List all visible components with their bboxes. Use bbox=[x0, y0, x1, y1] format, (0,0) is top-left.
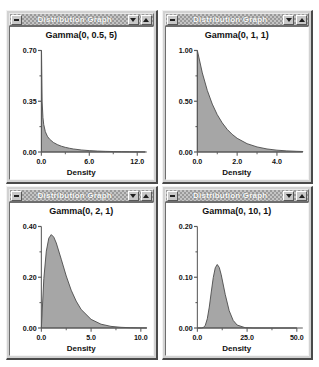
plot-area-4: 0.000.100.200.025.050.0 bbox=[166, 220, 309, 355]
x-axis-label-2: Density bbox=[166, 168, 309, 177]
x-axis-label-1: Density bbox=[10, 168, 153, 177]
distribution-graph-window-2[interactable]: Distribution Graph Gamma(0, 1, 1) 0.000.… bbox=[162, 10, 314, 184]
system-menu-button-4[interactable] bbox=[167, 191, 178, 201]
svg-text:0.0: 0.0 bbox=[192, 156, 202, 166]
window-title-4: Distribution Graph bbox=[179, 191, 283, 200]
svg-text:5.0: 5.0 bbox=[86, 332, 96, 342]
chevron-up-icon bbox=[299, 18, 305, 22]
distribution-graph-window-4[interactable]: Distribution Graph Gamma(0, 10, 1) 0.000… bbox=[162, 186, 314, 360]
window-title-2: Distribution Graph bbox=[179, 15, 283, 24]
minimize-button-4[interactable] bbox=[283, 191, 294, 201]
chevron-up-icon bbox=[299, 194, 305, 198]
minimize-button-2[interactable] bbox=[283, 15, 294, 25]
system-menu-button-1[interactable] bbox=[11, 15, 22, 25]
window-title-3: Distribution Graph bbox=[23, 191, 127, 200]
window-titlebar-2[interactable]: Distribution Graph bbox=[165, 13, 310, 26]
chevron-down-icon bbox=[130, 18, 136, 22]
window-client-area-1: Gamma(0, 0.5, 5) 0.000.350.700.06.012.0 … bbox=[9, 26, 154, 180]
svg-text:12.0: 12.0 bbox=[130, 156, 144, 166]
window-title-1: Distribution Graph bbox=[23, 15, 127, 24]
plot-area-1: 0.000.350.700.06.012.0 bbox=[10, 44, 153, 179]
chart-title-1: Gamma(0, 0.5, 5) bbox=[10, 30, 153, 41]
svg-text:0.20: 0.20 bbox=[178, 222, 192, 232]
x-axis-label-4: Density bbox=[166, 344, 309, 353]
system-menu-icon bbox=[170, 19, 175, 21]
plot-area-2: 0.000.501.000.02.04.0 bbox=[166, 44, 309, 179]
svg-text:0.00: 0.00 bbox=[178, 147, 192, 157]
maximize-button-4[interactable] bbox=[296, 191, 307, 201]
window-titlebar-3[interactable]: Distribution Graph bbox=[9, 189, 154, 202]
minimize-button-1[interactable] bbox=[128, 15, 139, 25]
svg-text:0.10: 0.10 bbox=[178, 273, 192, 283]
system-menu-button-2[interactable] bbox=[167, 15, 178, 25]
desktop-workspace: Distribution Graph Gamma(0, 0.5, 5) 0.00… bbox=[0, 0, 319, 367]
distribution-plot-4: 0.000.100.200.025.050.0 bbox=[166, 220, 309, 355]
window-client-area-3: Gamma(0, 2, 1) 0.000.200.400.05.010.0 De… bbox=[9, 202, 154, 356]
svg-text:0.00: 0.00 bbox=[178, 323, 192, 333]
chart-title-2: Gamma(0, 1, 1) bbox=[166, 30, 309, 41]
chart-title-3: Gamma(0, 2, 1) bbox=[10, 206, 153, 217]
chevron-up-icon bbox=[143, 194, 149, 198]
svg-text:0.35: 0.35 bbox=[23, 97, 38, 107]
distribution-plot-3: 0.000.200.400.05.010.0 bbox=[10, 220, 153, 355]
window-titlebar-4[interactable]: Distribution Graph bbox=[165, 189, 310, 202]
svg-text:6.0: 6.0 bbox=[84, 156, 94, 166]
svg-text:0.20: 0.20 bbox=[23, 273, 37, 283]
distribution-graph-window-1[interactable]: Distribution Graph Gamma(0, 0.5, 5) 0.00… bbox=[6, 10, 158, 184]
svg-text:0.40: 0.40 bbox=[23, 222, 37, 232]
window-client-area-2: Gamma(0, 1, 1) 0.000.501.000.02.04.0 Den… bbox=[165, 26, 310, 180]
system-menu-icon bbox=[14, 19, 19, 21]
window-client-area-4: Gamma(0, 10, 1) 0.000.100.200.025.050.0 … bbox=[165, 202, 310, 356]
chevron-down-icon bbox=[130, 194, 136, 198]
svg-text:0.0: 0.0 bbox=[36, 332, 46, 342]
maximize-button-1[interactable] bbox=[141, 15, 152, 25]
distribution-plot-1: 0.000.350.700.06.012.0 bbox=[10, 44, 153, 179]
plot-area-3: 0.000.200.400.05.010.0 bbox=[10, 220, 153, 355]
svg-text:0.0: 0.0 bbox=[192, 332, 202, 342]
system-menu-icon bbox=[170, 195, 175, 197]
chevron-down-icon bbox=[286, 194, 292, 198]
svg-text:0.00: 0.00 bbox=[23, 323, 37, 333]
x-axis-label-3: Density bbox=[10, 344, 153, 353]
minimize-button-3[interactable] bbox=[128, 191, 139, 201]
svg-text:50.0: 50.0 bbox=[289, 332, 303, 342]
chart-title-4: Gamma(0, 10, 1) bbox=[166, 206, 309, 217]
svg-text:1.00: 1.00 bbox=[178, 46, 192, 56]
svg-text:4.0: 4.0 bbox=[271, 156, 281, 166]
window-titlebar-1[interactable]: Distribution Graph bbox=[9, 13, 154, 26]
system-menu-icon bbox=[14, 195, 19, 197]
graph-window-grid: Distribution Graph Gamma(0, 0.5, 5) 0.00… bbox=[6, 10, 313, 360]
svg-text:2.0: 2.0 bbox=[232, 156, 242, 166]
svg-text:0.00: 0.00 bbox=[23, 147, 37, 157]
chevron-up-icon bbox=[143, 18, 149, 22]
svg-text:10.0: 10.0 bbox=[134, 332, 148, 342]
distribution-plot-2: 0.000.501.000.02.04.0 bbox=[166, 44, 309, 179]
chevron-down-icon bbox=[286, 18, 292, 22]
svg-text:25.0: 25.0 bbox=[240, 332, 254, 342]
maximize-button-2[interactable] bbox=[296, 15, 307, 25]
svg-text:0.0: 0.0 bbox=[36, 156, 46, 166]
system-menu-button-3[interactable] bbox=[11, 191, 22, 201]
distribution-graph-window-3[interactable]: Distribution Graph Gamma(0, 2, 1) 0.000.… bbox=[6, 186, 158, 360]
svg-text:0.70: 0.70 bbox=[23, 46, 37, 56]
maximize-button-3[interactable] bbox=[141, 191, 152, 201]
svg-text:0.50: 0.50 bbox=[178, 97, 192, 107]
